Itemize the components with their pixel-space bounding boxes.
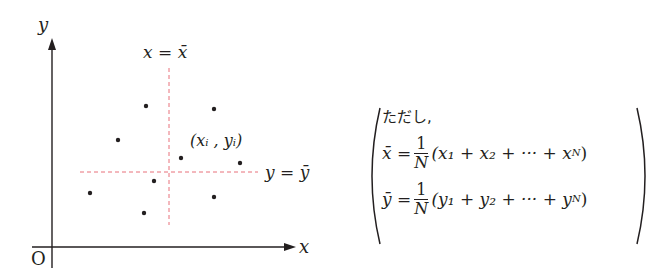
mean-formula: ただし, x̄ = 1 N (x₁ + x₂ + ··· + xN) ȳ = 1…: [382, 104, 587, 222]
right-paren-icon: [637, 108, 645, 244]
ybar-equation: ȳ = 1 N (y₁ + y₂ + ··· + yN): [382, 176, 587, 222]
ybar-sub-n: N: [572, 194, 581, 204]
xbar-denominator: N: [414, 154, 428, 172]
xbar-equation: x̄ = 1 N (x₁ + x₂ + ··· + xN): [382, 130, 587, 176]
ybar-rhs: (y₁ + y₂ + ··· + y: [431, 191, 571, 208]
ybar-fraction: 1 N: [414, 181, 428, 218]
ybar-numerator: 1: [414, 181, 428, 200]
left-paren-icon: [372, 108, 380, 244]
ybar-lhs: ȳ =: [382, 191, 411, 208]
xbar-fraction: 1 N: [414, 135, 428, 172]
xbar-rhs: (x₁ + x₂ + ··· + x: [431, 145, 571, 162]
xbar-numerator: 1: [414, 135, 428, 154]
xbar-lhs: x̄ =: [382, 145, 411, 162]
formula-note: ただし,: [382, 104, 587, 130]
ybar-denominator: N: [414, 200, 428, 218]
xbar-sub-n: N: [572, 148, 581, 158]
